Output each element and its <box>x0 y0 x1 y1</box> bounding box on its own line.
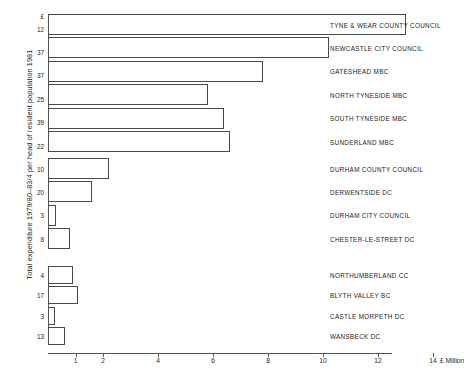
x-axis-tick-label: 1 <box>74 357 78 364</box>
series-name-label: DURHAM COUNTY COUNCIL <box>330 165 423 172</box>
series-name-label: DURHAM CITY COUNCIL <box>330 212 410 219</box>
series-name-label: NEWCASTLE CITY COUNCIL <box>330 44 423 51</box>
series-name-label: NORTHUMBERLAND CC <box>330 272 409 279</box>
x-axis-tick-label: 2 <box>101 357 105 364</box>
bar <box>48 84 208 105</box>
x-axis-tick-label: 14 <box>429 357 436 364</box>
bar <box>48 205 56 226</box>
bar <box>48 37 329 58</box>
x-axis-tick-label: 10 <box>319 357 326 364</box>
category-tick-label: 37 <box>20 48 44 55</box>
category-tick-label: 8 <box>20 235 44 242</box>
category-tick-label: 12 <box>20 25 44 32</box>
plot-area <box>48 14 328 354</box>
bar <box>48 131 230 152</box>
category-tick-label: 3 <box>20 212 44 219</box>
series-name-label: SUNDERLAND MBC <box>330 138 394 145</box>
category-tick-label: 10 <box>20 165 44 172</box>
bar <box>48 228 70 249</box>
bar <box>48 266 73 284</box>
bar <box>48 108 224 129</box>
category-tick-label: 39 <box>20 119 44 126</box>
series-name-label: NORTH TYNESIDE MBC <box>330 91 407 98</box>
series-name-label: BLYTH VALLEY BC <box>330 292 391 299</box>
x-axis-tick-label: 6 <box>211 357 215 364</box>
category-tick-label: 13 <box>20 333 44 340</box>
category-tick-label: 20 <box>20 188 44 195</box>
x-axis-unit-label: £ Million <box>440 357 464 364</box>
x-axis-tick-label: 4 <box>156 357 160 364</box>
category-tick-label: 37 <box>20 72 44 79</box>
series-name-label: WANSBECK DC <box>330 333 381 340</box>
category-tick-label: 25 <box>20 95 44 102</box>
category-tick-label: 22 <box>20 142 44 149</box>
bar <box>48 158 109 179</box>
bar <box>48 307 55 325</box>
bar <box>48 61 263 82</box>
x-axis-line <box>48 353 392 354</box>
series-name-label: SOUTH TYNESIDE MBC <box>330 115 407 122</box>
x-axis-tick-label: 8 <box>266 357 270 364</box>
category-tick-label: 3 <box>20 312 44 319</box>
series-name-label: CASTLE MORPETH DC <box>330 312 405 319</box>
series-name-label: CHESTER-LE-STREET DC <box>330 235 415 242</box>
series-name-label: TYNE & WEAR COUNTY COUNCIL <box>330 21 441 28</box>
x-axis-tick-label: 12 <box>374 357 381 364</box>
bar <box>48 327 65 345</box>
series-name-label: DERWENTSIDE DC <box>330 188 392 195</box>
series-name-label: GATESHEAD MBC <box>330 68 389 75</box>
bar <box>48 181 92 202</box>
category-tick-label: 4 <box>20 272 44 279</box>
category-tick-label: 17 <box>20 292 44 299</box>
bar <box>48 286 78 304</box>
category-tick-label: £ <box>20 13 44 20</box>
